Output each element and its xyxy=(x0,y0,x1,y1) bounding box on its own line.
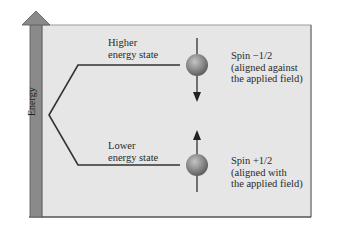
energy-diagram xyxy=(0,0,344,230)
higher-energy-label: Higher energy state xyxy=(108,37,158,60)
spin-plus-half-desc-2: the applied field) xyxy=(231,178,303,190)
spin-plus-half-desc-1: (aligned with xyxy=(231,167,303,179)
higher-energy-label-line2: energy state xyxy=(108,49,158,61)
lower-energy-label: Lower energy state xyxy=(108,140,158,163)
spin-minus-half-desc-2: the applied field) xyxy=(231,73,303,85)
spin-plus-half-title: Spin +1/2 xyxy=(231,155,303,167)
spin-plus-half-label: Spin +1/2 (aligned with the applied fiel… xyxy=(231,155,303,190)
spin-minus-half-label: Spin −1/2 (aligned against the applied f… xyxy=(231,50,303,85)
lower-energy-label-line2: energy state xyxy=(108,152,158,164)
higher-energy-label-line1: Higher xyxy=(108,37,158,49)
spin-minus-half-desc-1: (aligned against xyxy=(231,62,303,74)
spin-minus-half-title: Spin −1/2 xyxy=(231,50,303,62)
energy-axis-label: Energy xyxy=(26,87,37,116)
lower-energy-label-line1: Lower xyxy=(108,140,158,152)
